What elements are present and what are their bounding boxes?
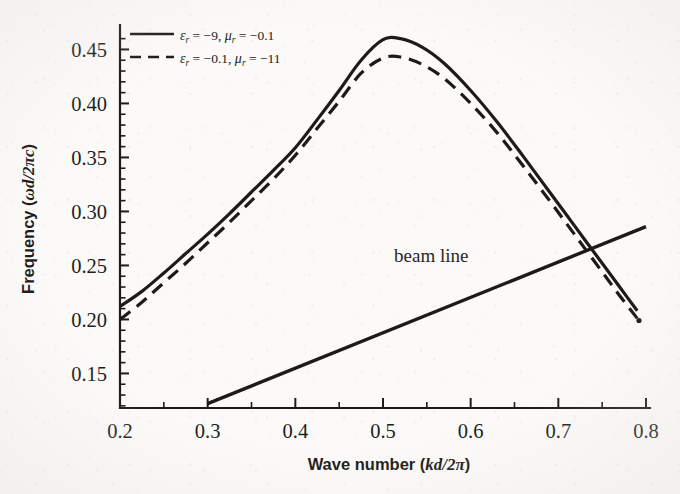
x-tick-label: 0.5 [370,420,396,442]
y-tick-label: 0.40 [71,93,107,115]
x-tick-label: 0.6 [458,420,484,442]
dispersion-diagram: 0.150.200.250.300.350.400.450.20.30.40.5… [0,0,680,494]
svg-text:Frequency (ωd/2πc): Frequency (ωd/2πc) [19,144,38,294]
series-solid-curve [120,37,637,310]
x-tick-label: 0.7 [546,420,572,442]
x-tick-label: 0.4 [283,420,309,442]
legend-entry-label: εr = −9, μr = −0.1 [180,28,274,45]
beam-line-label: beam line [394,245,468,266]
legend-entry-label: εr = −0.1, μr = −11 [180,51,281,68]
y-tick-label: 0.25 [71,255,107,277]
svg-text:Wave number (kd/2π): Wave number (kd/2π) [308,455,471,474]
y-tick-label: 0.45 [71,39,107,61]
y-tick-label: 0.15 [71,363,107,385]
x-axis-title: Wave number (kd/2π) [308,455,471,474]
y-tick-label: 0.35 [71,147,107,169]
x-tick-label: 0.3 [195,420,221,442]
x-tick-label: 0.8 [633,420,659,442]
y-axis-title: Frequency (ωd/2πc) [19,144,38,294]
y-tick-label: 0.20 [71,309,107,331]
y-tick-label: 0.30 [71,201,107,223]
series-dashed-curve [120,56,637,319]
x-tick-label: 0.2 [107,420,133,442]
dashed-curve-end-dot [636,318,641,323]
